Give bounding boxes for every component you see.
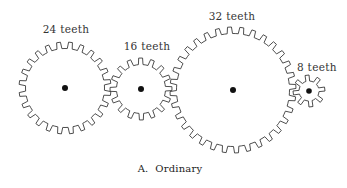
gear-8: 8 teeth <box>293 61 337 107</box>
gear-32-label: 32 teeth <box>209 10 256 22</box>
figure-caption: A. Ordinary <box>137 163 203 174</box>
gear-32: 32 teeth <box>170 10 296 153</box>
gear-16: 16 teeth <box>110 40 172 120</box>
gear-32-hub <box>230 87 236 93</box>
gear-8-label: 8 teeth <box>297 61 337 73</box>
gear-24: 24 teeth <box>19 23 111 134</box>
gear-16-label: 16 teeth <box>124 40 171 52</box>
gear-train-diagram: 24 teeth 16 teeth 32 teeth 8 teeth A. Or… <box>0 0 347 188</box>
gear-24-label: 24 teeth <box>43 23 90 35</box>
gear-8-hub <box>306 88 312 94</box>
gear-24-hub <box>62 85 68 91</box>
gear-16-hub <box>138 86 144 92</box>
